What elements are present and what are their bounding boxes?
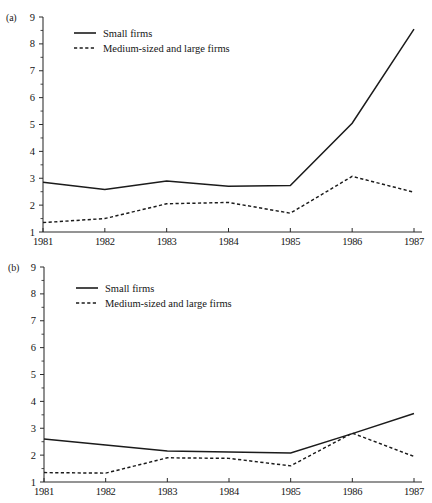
y-axis-tick-label: 8: [31, 288, 36, 299]
y-axis-tick-label: 8: [30, 38, 35, 49]
data-series-line: [44, 413, 414, 453]
x-axis-tick-label: 1987: [404, 486, 424, 497]
x-axis-tick-label: 1982: [95, 236, 115, 247]
chart-panel-a: (a) 123456789198119821983198419851986198…: [0, 0, 432, 255]
x-axis-tick-label: 1983: [157, 236, 177, 247]
y-axis-tick-label: 3: [30, 173, 35, 184]
x-axis-tick-label: 1984: [219, 236, 240, 247]
y-axis-tick-label: 4: [30, 146, 36, 157]
line-chart-a: 1234567891981198219831984198519861987Sma…: [0, 0, 432, 255]
y-axis-tick-label: 2: [30, 200, 35, 211]
legend-label: Medium-sized and large firms: [103, 43, 230, 54]
x-axis-tick-label: 1985: [280, 236, 300, 247]
x-axis-tick-label: 1983: [157, 486, 177, 497]
chart-panel-b: (b) 123456789198119821983198419851986198…: [0, 255, 432, 503]
legend-label: Medium-sized and large firms: [105, 298, 232, 309]
x-axis-tick-label: 1986: [342, 486, 362, 497]
y-axis-tick-label: 5: [31, 369, 36, 380]
y-axis-tick-label: 2: [31, 450, 36, 461]
y-axis-tick-label: 7: [30, 65, 35, 76]
data-series-line: [44, 433, 414, 473]
y-axis-tick-label: 6: [31, 342, 36, 353]
y-axis-tick-label: 7: [31, 315, 36, 326]
line-chart-b: 1234567891981198219831984198519861987Sma…: [0, 255, 432, 503]
x-axis-tick-label: 1986: [342, 236, 362, 247]
x-axis-tick-label: 1987: [404, 236, 424, 247]
x-axis-tick-label: 1985: [281, 486, 301, 497]
x-axis-tick-label: 1981: [33, 236, 53, 247]
y-axis-tick-label: 9: [30, 12, 35, 23]
x-axis-tick-label: 1982: [96, 486, 116, 497]
legend-label: Small firms: [105, 283, 154, 294]
x-axis-tick-label: 1984: [219, 486, 240, 497]
y-axis-tick-label: 3: [31, 423, 36, 434]
x-axis-tick-label: 1981: [34, 486, 54, 497]
y-axis-tick-label: 4: [31, 396, 37, 407]
data-series-line: [43, 176, 414, 222]
y-axis-tick-label: 9: [31, 262, 36, 273]
y-axis-tick-label: 5: [30, 119, 35, 130]
legend-label: Small firms: [103, 28, 152, 39]
y-axis-tick-label: 6: [30, 92, 35, 103]
